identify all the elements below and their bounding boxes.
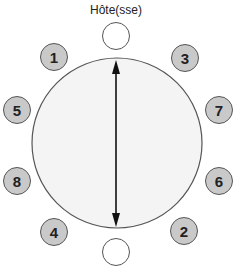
seat-2: 2 <box>171 218 198 245</box>
seat-number: 6 <box>215 173 223 190</box>
seat-number: 1 <box>50 49 58 66</box>
seat-8: 8 <box>4 168 31 195</box>
seat-number: 3 <box>181 50 189 67</box>
host-seat <box>103 23 130 50</box>
round-table <box>32 58 202 228</box>
seat-3: 3 <box>172 45 199 72</box>
seat-4: 4 <box>41 219 68 246</box>
seat-number: 2 <box>180 223 188 240</box>
seat-5: 5 <box>4 97 31 124</box>
seat-number: 4 <box>50 224 59 241</box>
seat-number: 8 <box>13 173 21 190</box>
seat-6: 6 <box>206 168 233 195</box>
seating-diagram: Hôte(sse) 1 3 5 7 8 6 4 2 <box>0 0 234 273</box>
seat-1: 1 <box>41 44 68 71</box>
seat-number: 5 <box>13 102 21 119</box>
seat-7: 7 <box>206 97 233 124</box>
opposite-host-seat <box>103 239 130 266</box>
host-label: Hôte(sse) <box>90 3 142 17</box>
seat-number: 7 <box>215 102 223 119</box>
